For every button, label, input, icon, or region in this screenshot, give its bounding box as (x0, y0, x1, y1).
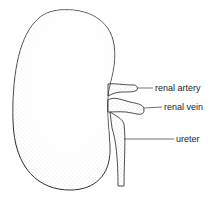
label-ureter: ureter (176, 134, 200, 144)
renal-vein-shape (108, 98, 144, 114)
kidney-illustration (0, 0, 216, 198)
label-renal-artery: renal artery (155, 83, 201, 93)
kidney-shape (13, 10, 115, 190)
ureter-shape (110, 112, 125, 186)
label-renal-vein: renal vein (164, 102, 203, 112)
renal-vein-leader (144, 107, 162, 108)
kidney-diagram: renal artery renal vein ureter (0, 0, 216, 198)
renal-artery-shape (108, 84, 137, 96)
